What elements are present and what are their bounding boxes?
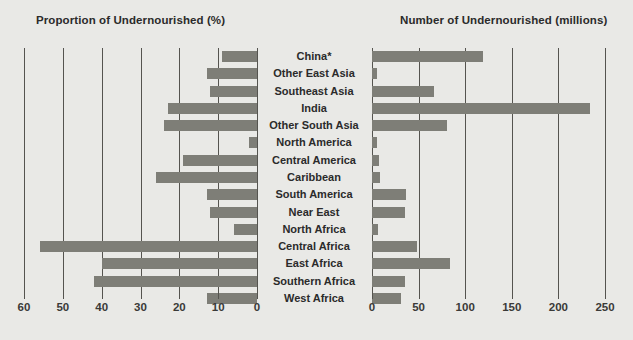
bar (372, 155, 379, 166)
axis-tick-label: 200 (549, 301, 568, 313)
bar (372, 276, 405, 287)
category-label: Near East (258, 204, 370, 221)
axis-tick-label: 150 (502, 301, 521, 313)
category-label: West Africa (258, 290, 370, 307)
left-x-axis: 6050403020100 (24, 290, 257, 330)
axis-tick (465, 290, 466, 299)
bar (372, 120, 447, 131)
bar-row (372, 48, 605, 65)
bar (102, 258, 257, 269)
axis-tick-label: 30 (134, 301, 147, 313)
left-panel-title: Proportion of Undernourished (%) (36, 14, 225, 26)
axis-tick (558, 290, 559, 299)
axis-tick (63, 290, 64, 299)
axis-tick (102, 290, 103, 299)
category-label: East Africa (258, 255, 370, 272)
category-label: Southern Africa (258, 273, 370, 290)
bar-row (372, 221, 605, 238)
axis-tick (372, 290, 373, 299)
bar (372, 258, 450, 269)
axis-tick-label: 40 (95, 301, 108, 313)
bar-row (24, 255, 257, 272)
category-label: Central Africa (258, 238, 370, 255)
bar-row (372, 169, 605, 186)
bar (207, 189, 257, 200)
bar-row (24, 152, 257, 169)
bar-row (24, 100, 257, 117)
axis-tick (218, 290, 219, 299)
axis-tick (605, 290, 606, 299)
axis-tick-label: 10 (212, 301, 225, 313)
bar (372, 103, 590, 114)
category-label: Southeast Asia (258, 83, 370, 100)
axis-tick-label: 0 (369, 301, 375, 313)
bar-row (372, 100, 605, 117)
axis-tick-label: 100 (456, 301, 475, 313)
bar-row (24, 134, 257, 151)
bar (372, 224, 378, 235)
bar (372, 86, 434, 97)
bar (94, 276, 257, 287)
left-plot-area (24, 48, 257, 290)
bar (207, 68, 257, 79)
category-label: China* (258, 48, 370, 65)
bar-row (372, 273, 605, 290)
bar (372, 51, 483, 62)
bar (372, 207, 405, 218)
bar (183, 155, 257, 166)
axis-tick-label: 20 (173, 301, 186, 313)
category-label: Other South Asia (258, 117, 370, 134)
bar-row (372, 65, 605, 82)
axis-tick-label: 0 (254, 301, 260, 313)
bar-row (372, 117, 605, 134)
axis-tick (257, 290, 258, 299)
left-bars (24, 48, 257, 290)
bar-row (24, 48, 257, 65)
gridline (605, 48, 606, 290)
right-plot-area (372, 48, 605, 290)
bar (210, 86, 257, 97)
axis-tick-label: 60 (18, 301, 31, 313)
bar (168, 103, 257, 114)
axis-tick-label: 50 (412, 301, 425, 313)
bar (372, 68, 377, 79)
category-label: India (258, 100, 370, 117)
bar-row (24, 204, 257, 221)
bar-row (372, 186, 605, 203)
bar (372, 241, 417, 252)
bar (372, 172, 380, 183)
category-label: South America (258, 186, 370, 203)
bar-row (24, 186, 257, 203)
axis-tick (419, 290, 420, 299)
chart-figure: Proportion of Undernourished (%) Number … (0, 0, 633, 340)
right-x-axis: 050100150200250 (372, 290, 605, 330)
bar-row (24, 117, 257, 134)
bar (372, 189, 406, 200)
bar (210, 207, 257, 218)
category-label: Other East Asia (258, 65, 370, 82)
bar-row (24, 238, 257, 255)
axis-tick (512, 290, 513, 299)
category-label: Central America (258, 152, 370, 169)
bar-row (372, 152, 605, 169)
axis-tick (179, 290, 180, 299)
bar (234, 224, 257, 235)
bar-row (372, 83, 605, 100)
axis-tick-label: 250 (595, 301, 614, 313)
bar-row (24, 83, 257, 100)
bar (164, 120, 257, 131)
bar (40, 241, 257, 252)
bar (156, 172, 257, 183)
category-label: North America (258, 134, 370, 151)
category-labels: China*Other East AsiaSoutheast AsiaIndia… (258, 48, 370, 290)
bar (222, 51, 257, 62)
bar-row (372, 238, 605, 255)
right-bars (372, 48, 605, 290)
bar-row (372, 204, 605, 221)
axis-tick (141, 290, 142, 299)
category-label: North Africa (258, 221, 370, 238)
bar-row (24, 273, 257, 290)
bar-row (372, 255, 605, 272)
right-panel-title: Number of Undernourished (millions) (400, 14, 607, 26)
bar-row (372, 134, 605, 151)
